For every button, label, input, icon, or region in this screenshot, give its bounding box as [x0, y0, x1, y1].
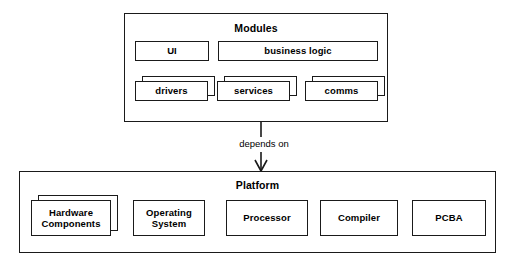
- node-comms-face: comms: [305, 81, 378, 101]
- node-ui[interactable]: UI: [135, 41, 209, 61]
- group-platform[interactable]: Platform Hardware Components Operating S…: [19, 171, 496, 253]
- node-hardware-components-label: Hardware Components: [35, 207, 107, 230]
- node-hardware-components[interactable]: Hardware Components: [31, 200, 111, 236]
- architecture-diagram: Modules UI business logic drivers servic…: [0, 0, 515, 267]
- node-drivers[interactable]: drivers: [135, 81, 208, 101]
- group-modules-title: Modules: [125, 22, 387, 34]
- node-hardware-components-face: Hardware Components: [31, 200, 111, 236]
- node-comms[interactable]: comms: [305, 81, 378, 101]
- node-processor[interactable]: Processor: [226, 200, 308, 236]
- node-comms-label: comms: [325, 85, 359, 97]
- group-platform-title: Platform: [20, 179, 495, 191]
- node-operating-system[interactable]: Operating System: [133, 200, 205, 236]
- node-pcba-label: PCBA: [435, 212, 462, 224]
- node-ui-label: UI: [167, 45, 177, 57]
- node-pcba[interactable]: PCBA: [412, 200, 486, 236]
- node-services-label: services: [234, 85, 273, 97]
- node-processor-label: Processor: [243, 212, 290, 224]
- connector-label: depends on: [227, 138, 301, 149]
- node-business-logic-label: business logic: [264, 45, 331, 57]
- group-modules[interactable]: Modules UI business logic drivers servic…: [124, 13, 388, 122]
- node-compiler[interactable]: Compiler: [320, 200, 398, 236]
- node-drivers-face: drivers: [135, 81, 208, 101]
- node-compiler-label: Compiler: [338, 212, 380, 224]
- node-services[interactable]: services: [217, 81, 290, 101]
- node-operating-system-label: Operating System: [140, 207, 198, 230]
- node-business-logic[interactable]: business logic: [218, 41, 378, 61]
- node-drivers-label: drivers: [155, 85, 187, 97]
- node-services-face: services: [217, 81, 290, 101]
